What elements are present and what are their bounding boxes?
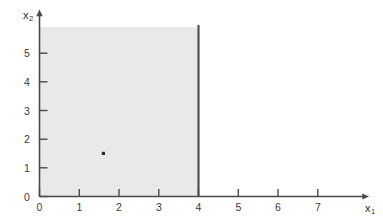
y-tick-label-3: 3: [24, 105, 30, 116]
y-axis-title: x2: [23, 10, 33, 21]
y-tick-label-4: 4: [24, 77, 30, 88]
y-tick-label-2: 2: [24, 134, 30, 145]
x-tick-label-7: 7: [315, 202, 321, 213]
y-tick-label-1: 1: [24, 163, 30, 174]
x-tick-label-2: 2: [116, 202, 122, 213]
x-tick-label-3: 3: [156, 202, 162, 213]
y-axis-title-base: x: [23, 9, 29, 21]
y-tick-label-5: 5: [24, 48, 30, 59]
x-axis-title-base: x: [365, 202, 371, 214]
x-tick-label-0: 0: [37, 202, 43, 213]
x-tick-label-1: 1: [76, 202, 82, 213]
chart-canvas: 0 1 2 3 4 5 6 7 0 1 2 3 4 5 x2 x1: [0, 0, 383, 223]
y-axis-title-sub: 2: [29, 14, 33, 23]
x-tick-label-6: 6: [275, 202, 281, 213]
x-axis-title-sub: 1: [371, 207, 375, 216]
point-marker: [102, 152, 105, 155]
x-axis-title: x1: [365, 203, 375, 214]
feasible-region-shading: [40, 27, 198, 196]
chart-svg: [0, 0, 383, 223]
x-tick-label-5: 5: [235, 202, 241, 213]
x-axis-arrow-icon: [362, 193, 369, 199]
y-tick-label-0: 0: [24, 191, 30, 202]
y-axis-arrow-icon: [36, 10, 42, 17]
x-tick-label-4: 4: [196, 202, 202, 213]
